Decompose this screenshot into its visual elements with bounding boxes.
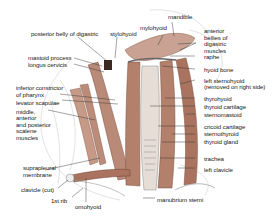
- label-suprapleural-2: membrane: [23, 171, 52, 178]
- label-suprapleural-1: suprapleural: [23, 164, 56, 171]
- label-thyroid-cartilage: thyroid cartilage: [204, 103, 246, 110]
- label-scalene-4: scalene: [16, 127, 37, 134]
- label-posterior-belly-digastric: posterior belly of digastric: [31, 30, 98, 37]
- label-trachea: trachea: [204, 155, 224, 162]
- label-cricoid-cartilage: cricoid cartilage: [204, 123, 245, 130]
- label-omohyoid: omohyoid: [75, 203, 101, 210]
- label-hyoid-bone: hyoid bone: [204, 66, 233, 73]
- label-mandible: mandible: [168, 13, 192, 20]
- label-anterior-bellies-1: anterior: [204, 27, 224, 34]
- label-left-clavicle: left clavicle: [204, 166, 233, 173]
- label-anterior-bellies-3: digastric: [204, 40, 226, 47]
- label-mastoid-process: mastoid process: [28, 54, 72, 61]
- label-inferior-constrictor-1: inferior constrictor: [16, 84, 63, 91]
- label-left-sternohyoid-2: (removed on right side): [204, 83, 265, 90]
- label-inferior-constrictor-2: of pharynx: [16, 91, 44, 98]
- label-thyroid-gland: thyroid gland: [204, 138, 238, 145]
- label-levator-scapulae: levator scapulae: [16, 99, 59, 106]
- label-scalene-2: anterior: [16, 114, 36, 121]
- label-sternothyroid: sternothyroid: [204, 130, 238, 137]
- label-longus-cervicis: longus cervicis: [28, 61, 67, 68]
- label-first-rib: 1st rib: [51, 197, 67, 204]
- neck-muscles-diagram: posterior belly of digastric stylohyoid …: [0, 0, 279, 221]
- label-raphe: raphe: [204, 53, 219, 60]
- label-scalene-5: muscles: [16, 134, 38, 141]
- label-thyrohyoid: thyrohyoid: [204, 95, 232, 102]
- label-manubrium-sterni: manubrium sterni: [157, 196, 203, 203]
- label-stylohyoid: stylohyoid: [110, 30, 137, 37]
- label-sternomastoid: sternomastoid: [204, 111, 242, 118]
- label-clavicle-cut: clavicle (cut): [21, 186, 54, 193]
- label-mylohyoid: mylohyoid: [140, 24, 167, 31]
